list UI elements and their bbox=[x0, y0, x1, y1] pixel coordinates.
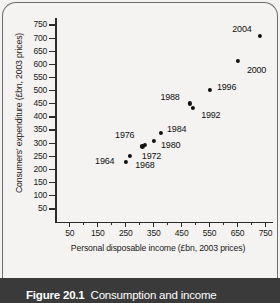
x-tick-label: 250 bbox=[112, 229, 140, 238]
y-tick-mark bbox=[49, 143, 55, 144]
data-point-label: 1992 bbox=[201, 110, 220, 119]
y-tick-label: 200 bbox=[33, 165, 47, 174]
y-tick-mark bbox=[49, 38, 55, 39]
data-point-label: 2000 bbox=[247, 65, 266, 74]
y-tick-label: 400 bbox=[33, 112, 47, 121]
y-tick-mark bbox=[49, 208, 55, 209]
x-tick-label: 750 bbox=[252, 229, 280, 238]
y-tick-mark bbox=[49, 64, 55, 65]
y-tick-label: 600 bbox=[33, 60, 47, 69]
x-tick-mark bbox=[69, 222, 70, 227]
y-tick-label: 350 bbox=[33, 125, 47, 134]
y-tick-label: 750 bbox=[33, 20, 47, 29]
x-tick-mark bbox=[125, 222, 126, 227]
y-tick-label: 700 bbox=[33, 34, 47, 43]
data-point bbox=[258, 33, 262, 37]
data-point bbox=[207, 88, 211, 92]
data-point-label: 1968 bbox=[135, 160, 154, 169]
data-point-label: 1976 bbox=[115, 130, 134, 139]
data-point-label: 1996 bbox=[217, 82, 236, 91]
x-tick-mark bbox=[265, 222, 266, 227]
x-tick-mark-minor bbox=[195, 222, 196, 225]
y-tick-mark bbox=[49, 51, 55, 52]
x-tick-mark-minor bbox=[111, 222, 112, 225]
x-tick-label: 150 bbox=[84, 229, 112, 238]
y-tick-mark bbox=[49, 195, 55, 196]
figure-caption: Figure 20.1 Consumption and income bbox=[26, 289, 217, 301]
data-point bbox=[124, 160, 128, 164]
y-tick-mark bbox=[49, 182, 55, 183]
y-tick-label: 500 bbox=[33, 86, 47, 95]
y-tick-mark bbox=[49, 24, 55, 25]
data-point bbox=[128, 153, 132, 157]
y-tick-mark bbox=[49, 103, 55, 104]
x-tick-label: 650 bbox=[224, 229, 252, 238]
data-point bbox=[235, 58, 239, 62]
y-tick-mark bbox=[49, 90, 55, 91]
y-axis-title: Consumers' expenditure (£bn, 2003 prices… bbox=[14, 8, 24, 218]
x-tick-label: 50 bbox=[56, 229, 84, 238]
x-tick-label: 550 bbox=[196, 229, 224, 238]
y-tick-mark bbox=[49, 156, 55, 157]
data-point bbox=[143, 142, 147, 146]
x-tick-mark-minor bbox=[251, 222, 252, 225]
y-axis-line bbox=[55, 18, 57, 223]
data-point bbox=[191, 106, 195, 110]
y-tick-mark bbox=[49, 169, 55, 170]
x-tick-mark bbox=[181, 222, 182, 227]
y-tick-label: 250 bbox=[33, 152, 47, 161]
y-tick-label: 550 bbox=[33, 73, 47, 82]
y-tick-label: 150 bbox=[33, 178, 47, 187]
y-tick-label: 300 bbox=[33, 139, 47, 148]
y-tick-label: 450 bbox=[33, 99, 47, 108]
figure-caption-number: Figure 20.1 bbox=[26, 289, 85, 301]
x-tick-label: 450 bbox=[168, 229, 196, 238]
figure-caption-title: Consumption and income bbox=[91, 289, 217, 301]
y-tick-label: 50 bbox=[38, 204, 47, 213]
scatter-plot: 5010015020025030035040045050055060065070… bbox=[0, 0, 280, 275]
x-tick-mark bbox=[237, 222, 238, 227]
data-point-label: 1964 bbox=[95, 156, 114, 165]
x-tick-mark-minor bbox=[167, 222, 168, 225]
y-tick-mark bbox=[49, 77, 55, 78]
data-point-label: 1972 bbox=[142, 152, 161, 161]
data-point-label: 1984 bbox=[167, 124, 186, 133]
data-point bbox=[159, 131, 163, 135]
x-tick-mark bbox=[97, 222, 98, 227]
data-point-label: 1988 bbox=[160, 93, 179, 102]
x-tick-mark bbox=[209, 222, 210, 227]
y-tick-mark bbox=[49, 116, 55, 117]
x-axis-title: Personal disposable income (£bn, 2003 pr… bbox=[36, 243, 280, 253]
data-point bbox=[152, 139, 156, 143]
x-tick-mark-minor bbox=[223, 222, 224, 225]
x-tick-label: 350 bbox=[140, 229, 168, 238]
y-tick-mark bbox=[49, 129, 55, 130]
data-point-label: 1980 bbox=[161, 140, 180, 149]
x-tick-mark-minor bbox=[83, 222, 84, 225]
figure-card: 5010015020025030035040045050055060065070… bbox=[0, 0, 280, 303]
y-tick-label: 650 bbox=[33, 47, 47, 56]
data-point-label: 2004 bbox=[232, 24, 251, 33]
x-tick-mark bbox=[153, 222, 154, 227]
x-tick-mark-minor bbox=[139, 222, 140, 225]
x-axis-line bbox=[55, 222, 273, 224]
y-tick-label: 100 bbox=[33, 191, 47, 200]
